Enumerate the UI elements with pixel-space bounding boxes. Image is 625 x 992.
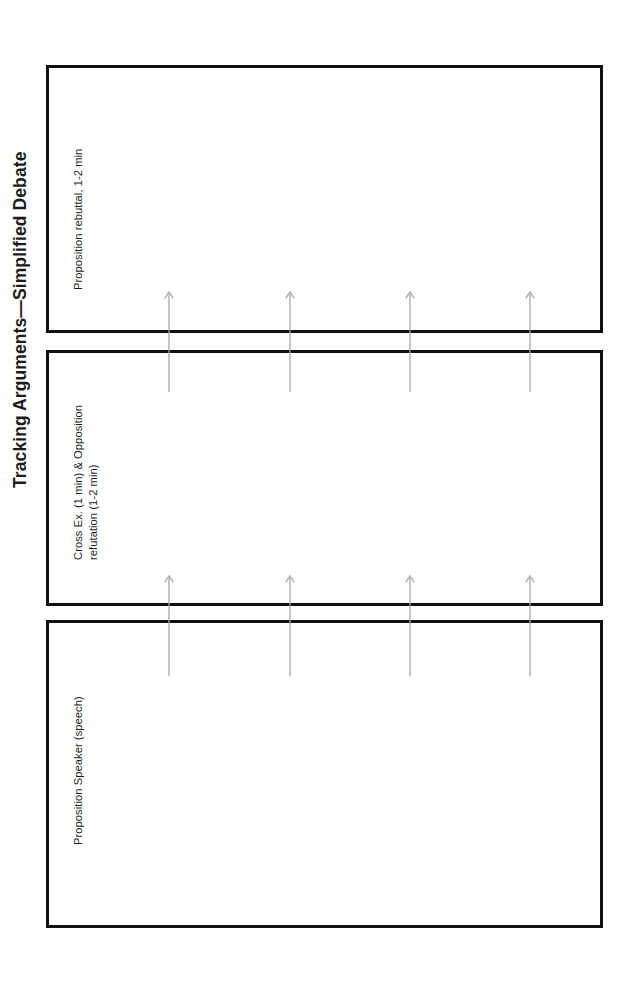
panel-cross-ex-opposition-refutation[interactable]: Cross Ex. (1 min) & Opposition refutatio… <box>46 350 603 606</box>
panel-label: Cross Ex. (1 min) & Opposition refutatio… <box>71 345 101 560</box>
page-title: Tracking Arguments—Simplified Debate <box>3 38 37 488</box>
panel-label: Proposition rebuttal, 1-2 min <box>71 60 86 290</box>
panel-proposition-speaker[interactable]: Proposition Speaker (speech) <box>46 620 603 928</box>
panel-proposition-rebuttal[interactable]: Proposition rebuttal, 1-2 min <box>46 65 603 333</box>
worksheet-page: Tracking Arguments—Simplified Debate Pro… <box>0 0 625 992</box>
panel-label: Proposition Speaker (speech) <box>71 615 86 845</box>
